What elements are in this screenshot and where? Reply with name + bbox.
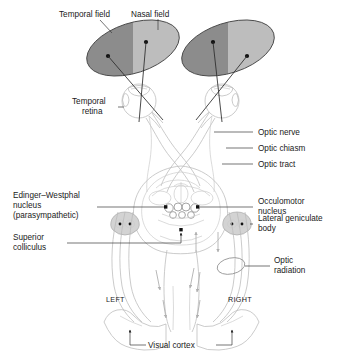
label-temporal-retina-line2: retina: [82, 107, 103, 116]
left-field-nasal-half: [133, 15, 188, 85]
label-edinger-westphal-line1: Edinger–Westphal: [13, 191, 80, 200]
right-field-nasal-half: [175, 15, 228, 85]
left-field-temporal-half: [80, 15, 133, 85]
superior-colliculus-marker: [179, 228, 182, 231]
label-optic-radiation-line2: radiation: [274, 266, 306, 275]
label-optic-chiasm: Optic chiasm: [258, 144, 305, 153]
arrow-down-left-radiation: [156, 270, 160, 290]
arrow-down-midline-left: [190, 268, 194, 288]
right-visual-field: [175, 9, 283, 86]
right-field-temporal-half: [228, 15, 283, 85]
label-left-hemisphere: LEFT: [106, 295, 125, 304]
label-superior-colliculus-line1: Superior: [13, 233, 44, 242]
label-lateral-geniculate-line2: body: [258, 224, 277, 233]
label-edinger-westphal-line2: nucleus: [13, 201, 41, 210]
label-nasal-field: Nasal field: [131, 10, 170, 19]
label-temporal-field: Temporal field: [59, 10, 110, 19]
left-visual-field: [80, 9, 188, 86]
label-lateral-geniculate-line1: Lateral geniculate: [258, 214, 323, 223]
label-right-hemisphere: RIGHT: [228, 295, 252, 304]
label-edinger-westphal-line3: (parasympathetic): [13, 211, 79, 220]
label-optic-radiation-line1: Optic: [274, 256, 293, 265]
edinger-westphal-nucleus-marker: [164, 205, 167, 208]
label-temporal-retina-line1: Temporal: [72, 97, 106, 106]
left-eyeball: [122, 84, 163, 128]
label-superior-colliculus-line2: colliculus: [13, 243, 46, 252]
diagram-canvas: Temporal field Nasal field Temporal reti…: [0, 0, 345, 354]
label-occulomotor-line1: Occulomotor: [258, 197, 305, 206]
label-optic-tract: Optic tract: [258, 160, 296, 169]
leader-temporal-field: [100, 20, 112, 33]
left-lateral-geniculate-body: [111, 212, 140, 235]
label-optic-nerve: Optic nerve: [258, 128, 300, 137]
occulomotor-nucleus-marker: [196, 205, 199, 208]
visual-pathway-diagram: Temporal field Nasal field Temporal reti…: [0, 0, 345, 354]
label-visual-cortex: Visual cortex: [148, 341, 195, 350]
